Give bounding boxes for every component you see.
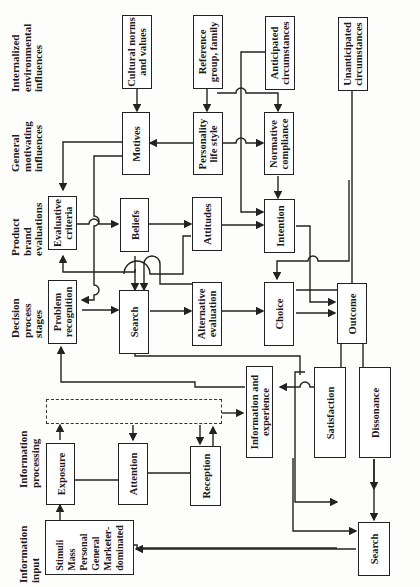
motives-label: Motives [131,126,142,162]
beliefs-label: Beliefs [129,210,140,240]
reception-label: Reception [200,454,211,499]
problem-recognition-label: Problem recognition [52,287,74,338]
problem-recognition-box: Problem recognition [48,280,77,344]
consumer-decision-diagram: Internalized environmental influences Ge… [0,0,420,587]
motives-box: Motives [122,112,150,175]
attention-box: Attention [118,443,148,505]
search-decision-box: Search [119,290,149,354]
row-label-motivating: General motivating influences [10,121,45,172]
alternative-evaluation-label: Alternative evaluation [196,289,218,340]
personality-box: Personality life style [193,112,223,175]
beliefs-box: Beliefs [120,198,149,252]
anticipated-circumstances-box: Anticipated circumstances [265,16,295,90]
satisfaction-label: Satisfaction [325,386,336,439]
dissonance-label: Dissonance [370,387,381,437]
cultural-norms-box: Cultural norms and values [122,15,152,89]
row-label-internalized: Internalized environmental influences [10,24,45,92]
row-label-evaluations: Product brand evaluations [10,203,45,256]
dissonance-box: Dissonance [359,367,391,458]
information-experience-box: Information and experience [246,366,273,458]
row-label-decision: Decision process stages [10,298,45,338]
reception-box: Reception [190,446,221,506]
row-label-processing: Information processing [18,431,41,488]
anticipated-circumstances-label: Anticipated circumstances [269,21,291,84]
intention-label: Intention [274,205,285,246]
reference-group-label: Reference group, family [197,22,219,82]
satisfaction-box: Satisfaction [314,367,346,458]
reference-group-box: Reference group, family [193,15,223,89]
stimuli-box: Stimuli Mass Personal General Marketer- … [45,520,134,575]
alternative-evaluation-box: Alternative evaluation [192,282,222,346]
attention-label: Attention [128,453,139,496]
evaluative-criteria-box: Evaluative criteria [48,196,77,250]
cultural-norms-label: Cultural norms and values [126,17,148,87]
outcome-label: Outcome [347,293,358,334]
attitudes-box: Attitudes [192,197,222,251]
unanticipated-circumstances-box: Unanticipated circumstances [338,17,368,91]
search-decision-label: Search [129,307,140,338]
exposure-label: Exposure [55,453,66,495]
intention-box: Intention [264,199,295,253]
unanticipated-circumstances-label: Unanticipated circumstances [342,22,364,86]
search-input-box: Search [358,522,390,576]
attitudes-label: Attitudes [202,203,213,244]
choice-box: Choice [264,282,294,346]
personality-label: Personality life style [197,118,219,169]
normative-compliance-label: Normative compliance [268,118,290,169]
information-experience-label: Information and experience [249,375,271,449]
memory-dashed-box [46,399,222,424]
exposure-box: Exposure [46,443,75,505]
evaluative-criteria-label: Evaluative criteria [52,199,74,247]
stimuli-label: Stimuli Mass Personal General Marketer- … [54,525,126,571]
choice-label: Choice [274,299,285,330]
search-input-label: Search [369,534,380,565]
row-label-input: Information input [18,526,41,583]
outcome-box: Outcome [337,283,367,344]
normative-compliance-box: Normative compliance [264,112,294,175]
